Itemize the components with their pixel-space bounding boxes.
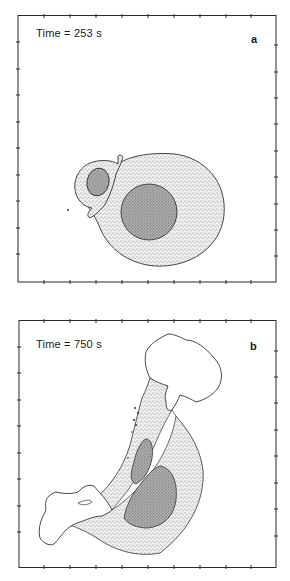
panel-b: Time = 750 s b [0, 0, 290, 581]
panel-b-time-label: Time = 750 s [36, 338, 102, 350]
panel-b-plot [0, 0, 290, 581]
panel-b-letter: b [250, 340, 257, 352]
